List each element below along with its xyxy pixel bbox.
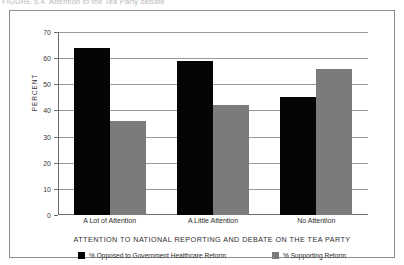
tick-mark-0 [54,215,58,216]
y-tick-label-60: 60 [43,55,51,62]
plot-inner: 70 60 50 40 30 20 10 0 [58,32,368,215]
chart-figure-frame: PERCENT 70 60 50 40 30 20 10 [9,10,395,258]
bar-group-a-lot-of-attention [58,32,161,215]
x-category-label-1: A Little Attention [161,217,264,224]
y-tick-label-20: 20 [43,159,51,166]
bar-supporting-a-lot[interactable] [110,121,146,215]
y-tick-label-30: 30 [43,133,51,140]
plot-area: 70 60 50 40 30 20 10 0 [58,32,368,215]
bar-supporting-no-attention[interactable] [316,69,352,215]
bar-group-no-attention [265,32,368,215]
legend-entry-supporting: % Supporting Reform [272,252,346,259]
x-category-label-0: A Lot of Attention [58,217,161,224]
x-category-label-2: No Attention [265,217,368,224]
x-axis-category-labels: A Lot of Attention A Little Attention No… [58,217,368,224]
bar-opposed-a-little[interactable] [177,61,213,215]
y-tick-label-70: 70 [43,29,51,36]
bar-opposed-no-attention[interactable] [280,97,316,215]
legend-swatch-icon-supporting [272,252,279,259]
x-axis-title: ATTENTION TO NATIONAL REPORTING AND DEBA… [19,235,404,244]
y-tick-label-40: 40 [43,107,51,114]
y-axis-title: PERCENT [31,63,38,123]
chart-legend: % Opposed to Government Healthcare Refor… [19,252,404,259]
bar-supporting-a-little[interactable] [213,105,249,215]
figure-caption-strip: FIGURE 5.4. Attention to the Tea Party d… [0,0,404,7]
y-tick-label-10: 10 [43,185,51,192]
bar-opposed-a-lot[interactable] [74,48,110,215]
bars-layer [58,32,368,215]
legend-label-supporting: % Supporting Reform [283,252,346,259]
bar-group-a-little-attention [161,32,264,215]
y-tick-label-50: 50 [43,81,51,88]
legend-label-opposed: % Opposed to Government Healthcare Refor… [89,252,226,259]
legend-swatch-icon-opposed [78,252,85,259]
y-tick-label-0: 0 [47,212,51,219]
legend-entry-opposed: % Opposed to Government Healthcare Refor… [78,252,226,259]
figure-caption: FIGURE 5.4. Attention to the Tea Party d… [0,0,404,7]
